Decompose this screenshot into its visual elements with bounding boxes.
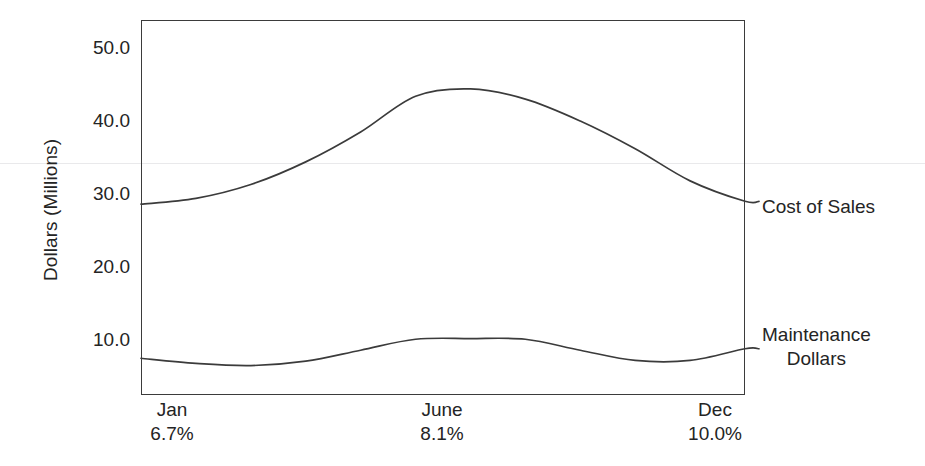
x-tick-jan-month: Jan — [102, 398, 242, 422]
x-tick-dec-month: Dec — [645, 398, 785, 422]
y-axis-title: Dollars (Millions) — [34, 20, 68, 400]
chart-container: Dollars (Millions) 50.0 40.0 30.0 20.0 1… — [0, 0, 925, 466]
x-tick-dec-percent: 10.0% — [645, 422, 785, 446]
y-tick-label-30: 30.0 — [68, 184, 130, 204]
x-tick-june-percent: 8.1% — [372, 422, 512, 446]
x-tick-june-month: June — [372, 398, 512, 422]
series-label-cost-of-sales: Cost of Sales — [762, 195, 875, 219]
series-label-maintenance-dollars: Maintenance Dollars — [762, 323, 871, 371]
x-tick-dec: Dec 10.0% — [645, 398, 785, 446]
y-tick-label-50: 50.0 — [68, 38, 130, 58]
y-tick-label-20: 20.0 — [68, 257, 130, 277]
series-label-maintenance-line1: Maintenance — [762, 324, 871, 345]
y-tick-label-10: 10.0 — [68, 330, 130, 350]
series-label-maintenance-line2: Dollars — [762, 347, 871, 371]
x-tick-jan: Jan 6.7% — [102, 398, 242, 446]
plot-frame — [141, 20, 745, 395]
x-tick-jan-percent: 6.7% — [102, 422, 242, 446]
x-tick-june: June 8.1% — [372, 398, 512, 446]
y-tick-label-40: 40.0 — [68, 111, 130, 131]
y-axis-tick-labels: 50.0 40.0 30.0 20.0 10.0 — [68, 0, 130, 466]
